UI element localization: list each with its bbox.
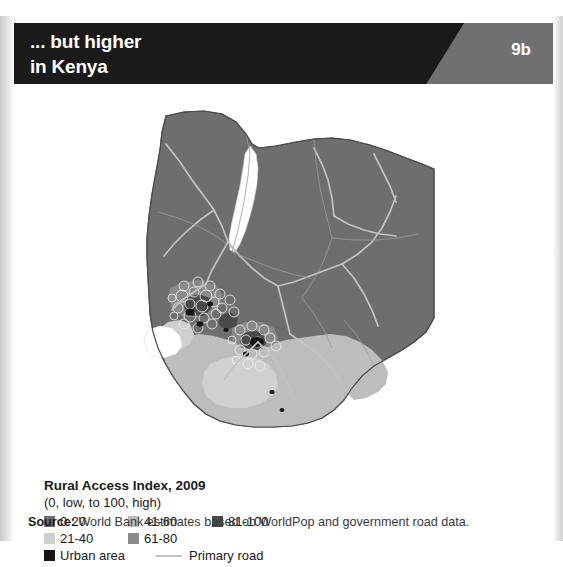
legend-item-21-40[interactable]: 21-40 (44, 531, 128, 546)
source-note: Source: World Bank estimates based on Wo… (28, 515, 548, 529)
figure-title: ... but higher in Kenya (30, 29, 141, 79)
legend-swatch-61-80 (128, 533, 139, 544)
legend-label-21-40: 21-40 (60, 531, 93, 546)
figure-number-badge: 9b (511, 40, 531, 60)
figure-header-banner: ... but higher in Kenya 9b (14, 23, 553, 84)
legend-item-61-80[interactable]: 61-80 (128, 531, 212, 546)
legend-item-primary-road[interactable]: Primary road (156, 548, 263, 563)
map-svg (14, 92, 553, 492)
legend-label-urban-area: Urban area (60, 548, 125, 563)
page-scan-edge-left (0, 0, 14, 541)
legend-swatch-21-40 (44, 533, 55, 544)
urban-area-swatch (44, 550, 55, 561)
primary-road-line-icon (156, 555, 182, 557)
legend-row-2: 21-40 61-80 (44, 531, 334, 546)
legend-label-primary-road: Primary road (189, 548, 263, 563)
page-scan-edge-top (0, 0, 563, 16)
legend-item-urban-area[interactable]: Urban area (44, 548, 156, 563)
legend-row-3: Urban area Primary road (44, 548, 334, 563)
page-scan-edge-right (553, 0, 563, 541)
legend-title: Rural Access Index, 2009 (44, 477, 334, 494)
source-label: Source: (28, 515, 75, 529)
legend-subtitle: (0, low, to 100, high) (44, 494, 334, 511)
map-body (144, 111, 434, 427)
legend-label-61-80: 61-80 (144, 531, 177, 546)
source-text: World Bank estimates based on WorldPop a… (75, 515, 469, 529)
kenya-choropleth-map: Rural Access Index, 2009 (0, low, to 100… (14, 92, 553, 492)
